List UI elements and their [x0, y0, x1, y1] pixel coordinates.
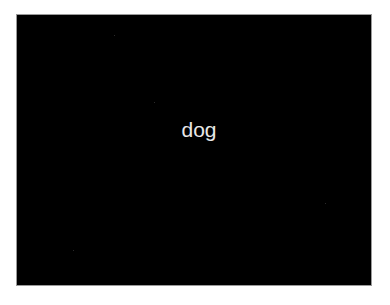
- noise-speck: [114, 35, 115, 36]
- noise-speck: [154, 102, 155, 103]
- noise-speck: [325, 203, 326, 204]
- image-label: dog: [17, 119, 371, 140]
- noise-speck: [73, 250, 74, 251]
- image-canvas: dog: [16, 14, 372, 286]
